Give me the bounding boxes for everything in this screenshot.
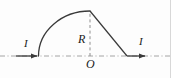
current-label-left: I xyxy=(24,38,28,49)
physics-diagram-figure: I I R O xyxy=(0,0,171,78)
diagonal-conductor-segment xyxy=(90,11,127,56)
current-label-right: I xyxy=(139,36,143,47)
radius-label: R xyxy=(78,33,85,45)
origin-label: O xyxy=(86,58,95,70)
figure-right-border xyxy=(170,0,171,78)
